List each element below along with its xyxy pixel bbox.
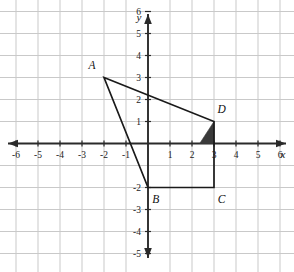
shaded-triangle [200,122,214,144]
y-tick-label: 1 [136,117,141,127]
x-tick-label: 4 [234,150,239,160]
y-tick-label: 3 [136,73,141,83]
x-tick-label: -1 [122,150,130,160]
y-tick-label: -5 [133,249,141,259]
y-axis-arrow-up [144,14,152,24]
y-tick-label: 2 [136,95,141,105]
x-tick-label: 1 [168,150,173,160]
coordinate-plot-svg: -6-5-4-3-2-1123456654321-2-3-4-5xyABCD [0,0,294,272]
x-tick-label: -6 [12,150,20,160]
point-label-d: D [217,103,227,115]
x-tick-label: 2 [190,150,195,160]
y-tick-label: -4 [133,227,141,237]
x-tick-label: -3 [78,150,86,160]
y-tick-label: 4 [136,51,141,61]
y-axis-label: y [136,11,142,23]
x-tick-label: -2 [100,150,108,160]
y-tick-label: -2 [133,183,141,193]
x-tick-label: -4 [56,150,64,160]
polygon-abcd [104,78,214,188]
coordinate-plane-figure: -6-5-4-3-2-1123456654321-2-3-4-5xyABCD [0,0,294,272]
point-label-a: A [87,59,96,71]
point-label-b: B [152,193,159,205]
y-tick-label: 5 [136,29,141,39]
x-axis-label: x [280,148,286,160]
point-label-c: C [218,193,226,205]
x-tick-label: -5 [34,150,42,160]
y-tick-label: -3 [133,205,141,215]
x-axis-arrow-right [276,140,286,148]
x-tick-label: 5 [256,150,261,160]
